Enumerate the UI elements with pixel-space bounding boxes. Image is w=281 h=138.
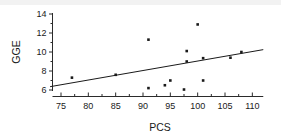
y-axis-title: GGE [10, 40, 22, 63]
x-tick-label: 75 [56, 101, 66, 111]
x-tick-labels: 7580859095100105110 [56, 101, 260, 111]
x-tick-label: 105 [217, 101, 232, 111]
data-point [164, 84, 167, 87]
y-axis [49, 13, 53, 91]
x-tick-label: 90 [138, 101, 148, 111]
x-tick-label: 95 [165, 101, 175, 111]
data-points [71, 23, 243, 91]
data-point [71, 76, 74, 79]
y-tick-label: 8 [41, 66, 46, 76]
scatter-plot-figure: 68101214 7580859095100105110 GGE PCS [0, 0, 281, 138]
data-point [169, 79, 172, 82]
x-tick-label: 100 [190, 101, 205, 111]
x-axis [53, 93, 264, 97]
data-point [196, 23, 199, 26]
y-tick-label: 10 [36, 47, 46, 57]
x-tick-label: 80 [83, 101, 93, 111]
plot-canvas: 68101214 7580859095100105110 GGE PCS [0, 0, 281, 138]
trend-line [50, 50, 263, 87]
data-point [147, 87, 150, 90]
data-point [202, 57, 205, 60]
data-point [229, 56, 232, 59]
data-point [185, 60, 188, 63]
data-point [183, 88, 186, 91]
data-point [147, 38, 150, 41]
x-tick-label: 110 [245, 101, 259, 111]
data-point [240, 51, 243, 54]
data-point [202, 79, 205, 82]
y-tick-label: 6 [41, 85, 46, 95]
x-axis-title: PCS [149, 121, 171, 133]
y-tick-label: 12 [36, 28, 46, 38]
data-point [114, 74, 117, 77]
x-tick-label: 85 [111, 101, 121, 111]
y-tick-labels: 68101214 [36, 9, 46, 95]
y-tick-label: 14 [36, 9, 46, 19]
data-point [185, 50, 188, 53]
